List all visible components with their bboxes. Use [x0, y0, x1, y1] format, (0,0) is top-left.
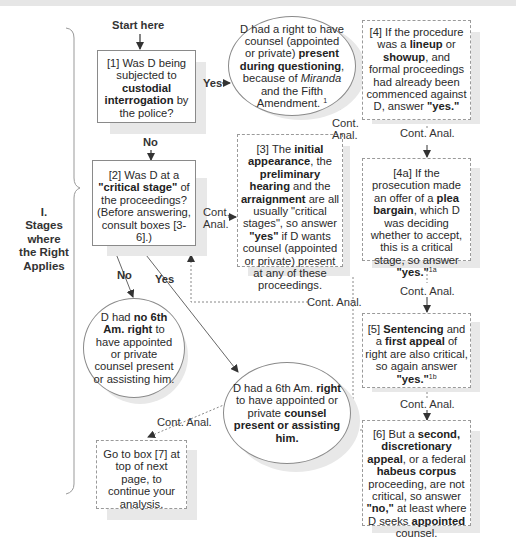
box2-critical-stage: [2] Was D at a "critical stage" of the p…	[92, 160, 196, 246]
box4a-plea-bargain: [4a] If the prosecution made an offer of…	[362, 158, 471, 261]
ellipse-fifth-amendment-right: D had a right to have counsel (appointed…	[228, 16, 356, 116]
edge-label-no-1: No	[143, 136, 158, 148]
edge-label-yes-1: Yes	[203, 77, 222, 89]
edge-label-cont-anal-5: Cont. Anal.	[400, 398, 455, 410]
start-label: Start here	[112, 19, 164, 31]
edge-label-cont-anal-4a: Cont. Anal.	[400, 285, 455, 297]
circle-no-sixth-amendment-right: D had no 6th Am. right to have appointed…	[83, 298, 185, 398]
ellipse-sixth-amendment-right: D had a 6th Am. right to have appointed …	[223, 362, 351, 464]
edge-label-cont-anal-4: Cont. Anal.	[400, 127, 455, 139]
edge-label-cont-anal-2to3: Cont. Anal.	[203, 206, 230, 231]
edge-label-cont-anal-loop: Cont. Anal.	[307, 296, 362, 308]
box1-custodial-interrogation: [1] Was D being subjected to custodial i…	[97, 50, 196, 123]
edge-label-cont-anal-3to4: Cont. Anal.	[332, 117, 359, 142]
box4-lineup-showup: [4] If the procedure was a lineup or sho…	[362, 20, 471, 120]
box7-reference: Go to box [7] at top of next page, to co…	[96, 440, 187, 509]
edge-label-yes-2: Yes	[155, 273, 174, 285]
edge-label-no-2: No	[117, 269, 132, 281]
box3-initial-appearance: [3] The initial appearance, the prelimin…	[237, 134, 343, 267]
edge-label-cont-anal-yes: Cont. Anal.	[157, 416, 212, 428]
box6-second-appeal-habeus: [6] But a second, discretionary appeal, …	[362, 420, 471, 526]
box5-sentencing-first-appeal: [5] Sentencing and a first appeal of rig…	[362, 313, 471, 388]
